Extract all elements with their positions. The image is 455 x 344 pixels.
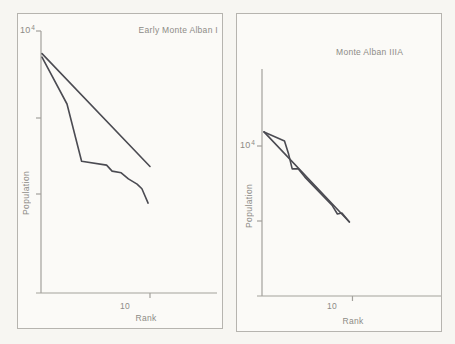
y-tick-label-base: 10	[20, 25, 31, 35]
x-axis-tick-label: 10	[324, 301, 340, 311]
figure-rank-size-plots: Early Monte Alban I 104 Population 10 Ra…	[0, 0, 455, 344]
x-axis-tick-label: 10	[117, 301, 133, 311]
chart-canvas-early-monte-alban-i	[18, 14, 222, 328]
y-tick-label-exponent: 4	[251, 139, 255, 146]
chart-panel-monte-alban-iiia: Monte Alban IIIA 104 Population 10 Rank	[236, 13, 442, 332]
expected-rank-size-line	[264, 132, 349, 222]
y-axis-tick-label: 104	[20, 23, 35, 35]
x-axis-title: Rank	[130, 313, 162, 323]
y-axis-title: Population	[21, 135, 31, 215]
y-tick-label-base: 10	[240, 140, 251, 150]
chart-title: Monte Alban IIIA	[336, 47, 403, 57]
expected-rank-size-line	[42, 54, 150, 167]
observed-rank-size-line	[42, 57, 148, 203]
chart-canvas-monte-alban-iiia	[237, 14, 441, 331]
y-tick-label-exponent: 4	[31, 24, 35, 31]
y-axis-title: Population	[244, 156, 254, 228]
chart-panel-early-monte-alban-i: Early Monte Alban I 104 Population 10 Ra…	[17, 13, 223, 329]
y-axis-tick-label: 104	[240, 138, 255, 150]
chart-title: Early Monte Alban I	[139, 25, 218, 35]
x-axis-title: Rank	[337, 316, 369, 326]
